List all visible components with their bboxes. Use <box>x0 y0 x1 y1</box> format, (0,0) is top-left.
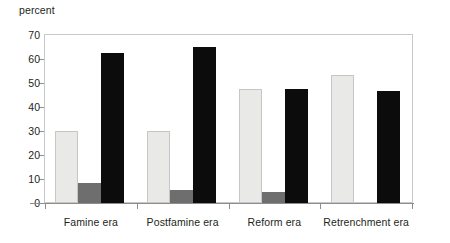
x-axis-tick-mark <box>137 204 138 209</box>
y-axis-tick-label: 60 <box>2 54 40 65</box>
x-axis-tick-mark <box>45 204 46 209</box>
y-axis-tick-label: 40 <box>2 102 40 113</box>
bar <box>239 89 262 203</box>
bar <box>285 89 308 203</box>
x-axis-tick-mark <box>229 204 230 209</box>
x-axis-category-label: Postfamine era <box>137 216 229 229</box>
x-axis-line <box>30 203 414 204</box>
bar <box>55 131 78 203</box>
y-axis-tick-label: 50 <box>2 78 40 89</box>
y-axis-tick-label: 70 <box>2 30 40 41</box>
y-axis-tick-label: 10 <box>2 174 40 185</box>
bar-chart: percent 010203040506070 Famine eraPostfa… <box>0 0 450 243</box>
plot-area <box>45 35 412 203</box>
x-axis-tick-mark <box>412 204 413 209</box>
bar <box>331 75 354 203</box>
bar <box>262 192 285 203</box>
bar <box>377 91 400 203</box>
y-axis-title: percent <box>19 4 55 16</box>
y-axis-tick-label: 30 <box>2 126 40 137</box>
x-axis-category-label: Retrenchment era <box>320 216 412 229</box>
y-axis-tick-labels: 010203040506070 <box>0 34 40 203</box>
x-axis-tick-mark <box>320 204 321 209</box>
bar <box>78 183 101 203</box>
y-axis-tick-label: 20 <box>2 150 40 161</box>
x-axis-category-label: Famine era <box>45 216 137 229</box>
bar <box>170 190 193 203</box>
x-axis-category-label: Reform era <box>229 216 321 229</box>
bar <box>193 47 216 203</box>
bar <box>101 53 124 203</box>
bar <box>147 131 170 203</box>
